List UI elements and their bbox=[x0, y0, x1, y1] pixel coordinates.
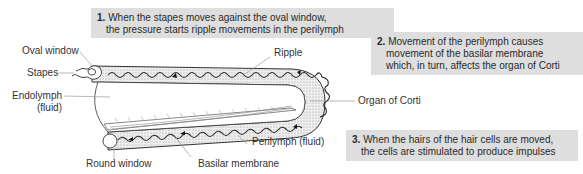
note-2-line2: movement of the basilar membrane bbox=[377, 48, 576, 60]
stapes-icon bbox=[72, 66, 102, 80]
label-perilymph: Perilymph (fluid) bbox=[252, 136, 324, 148]
note-3-line1: When the hairs of the hair cells are mov… bbox=[363, 134, 553, 145]
note-2-number: 2. bbox=[377, 36, 385, 47]
note-2-line3: which, in turn, affects the organ of Cor… bbox=[377, 60, 576, 72]
cochlea-diagram: Oval window Stapes Endolymph (fluid) Rip… bbox=[0, 0, 583, 174]
note-3-number: 3. bbox=[352, 134, 360, 145]
note-2-line1: Movement of the perilymph causes bbox=[388, 36, 543, 47]
label-endolymph-line2: (fluid) bbox=[6, 102, 62, 114]
label-basilar-membrane: Basilar membrane bbox=[198, 158, 279, 170]
label-endolymph: Endolymph (fluid) bbox=[6, 90, 62, 114]
note-2: 2. Movement of the perilymph causes move… bbox=[371, 32, 583, 75]
note-3-line2: the cells are stimulated to produce impu… bbox=[352, 146, 571, 158]
note-1-line2: the pressure starts ripple movements in … bbox=[97, 24, 387, 36]
label-ripple: Ripple bbox=[274, 47, 302, 59]
label-oval-window: Oval window bbox=[22, 45, 79, 57]
label-stapes: Stapes bbox=[27, 67, 58, 79]
round-window-icon bbox=[103, 134, 117, 148]
note-1-line1: When the stapes moves against the oval w… bbox=[108, 12, 326, 23]
note-3: 3. When the hairs of the hair cells are … bbox=[346, 130, 578, 161]
note-1: 1. When the stapes moves against the ova… bbox=[91, 8, 394, 38]
note-1-number: 1. bbox=[97, 12, 105, 23]
label-endolymph-line1: Endolymph bbox=[6, 90, 62, 102]
label-round-window: Round window bbox=[86, 158, 152, 170]
label-organ-of-corti: Organ of Corti bbox=[358, 95, 421, 107]
